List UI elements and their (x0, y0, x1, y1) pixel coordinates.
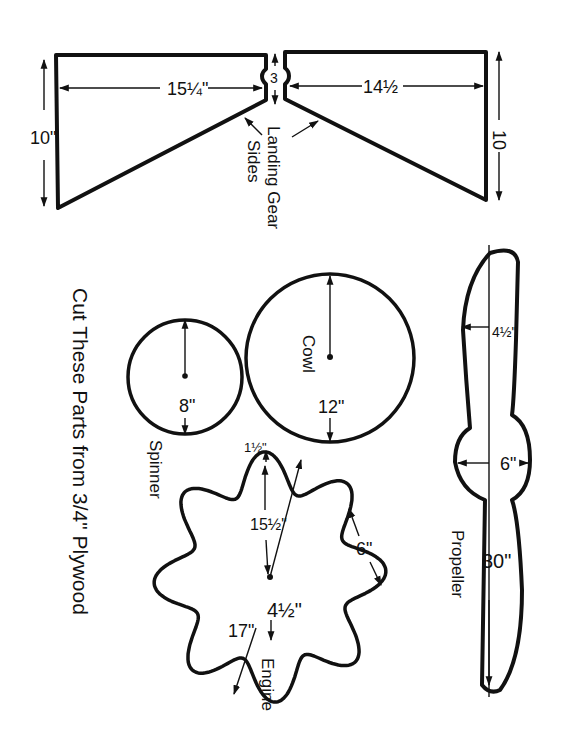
propeller-blade-width-label: 4½" (492, 324, 516, 340)
spinner-part: 8" Spinner (128, 320, 242, 499)
engine-label: Engine (258, 658, 277, 711)
propeller-length-label: 30" (482, 550, 511, 572)
width-label-right: 14½ (363, 77, 398, 97)
propeller-hub-diameter-label: 6" (500, 454, 516, 474)
propeller-part: 4½" 6" 30" Propeller (448, 245, 530, 697)
spinner-diameter-label: 8" (179, 396, 195, 416)
landing-gear-side-left: 15¼" 10" (30, 55, 266, 208)
height-label-left: 10" (30, 128, 56, 148)
cowl-part: 12" Cowl (246, 274, 414, 442)
propeller-outline (455, 250, 530, 691)
engine-inner-diameter-label: 15½" (250, 516, 287, 533)
engine-lobe-width-label: 6" (356, 539, 372, 559)
engine-part: 1½" 15½" 4½" 17" 6" Engine (154, 440, 386, 711)
cowl-diameter-label: 12" (318, 397, 344, 417)
plywood-parts-diagram: 15¼" 10" 3 14½ 10 Landing Gear Sides Cut… (0, 0, 564, 743)
landing-gear-left-outline (56, 55, 266, 208)
engine-lobe-depth-label: 1½" (244, 440, 267, 455)
notch-dimension: 3 (270, 54, 278, 104)
width-label-left: 15¼" (167, 79, 208, 99)
height-label-right: 10 (489, 130, 509, 150)
landing-gear-right-outline (285, 52, 486, 200)
engine-outer-diameter-label: 17" (228, 621, 254, 641)
landing-gear-side-right: 14½ 10 (285, 52, 509, 200)
landing-gear-label-line2: Sides (244, 140, 263, 183)
notch-height-label: 3 (270, 70, 278, 86)
landing-gear-label: Landing Gear Sides (244, 118, 318, 229)
diagram-title: Cut These Parts from 3/4" Plywood (69, 288, 92, 615)
spinner-label: Spinner (146, 440, 165, 499)
engine-center-offset-label: 4½" (267, 599, 302, 621)
propeller-label: Propeller (448, 530, 467, 598)
landing-gear-label-line1: Landing Gear (264, 126, 283, 229)
cowl-label: Cowl (299, 335, 318, 373)
